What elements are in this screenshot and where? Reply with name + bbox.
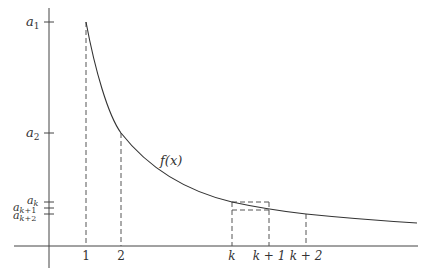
x-label-k2: k + 2 xyxy=(290,249,323,263)
dashed-lines xyxy=(86,22,306,246)
x-label-2: 2 xyxy=(117,249,125,263)
y-label-a2: a2 xyxy=(26,125,40,142)
x-label-1: 1 xyxy=(82,249,90,263)
x-label-k: k xyxy=(228,249,235,263)
diagram-canvas: a1 a2 ak ak+1 ak+2 f(x) 1 2 k k + 1 k + … xyxy=(0,0,427,275)
curve-f xyxy=(86,22,417,223)
x-label-k1: k + 1 xyxy=(253,249,286,263)
curve-label: f(x) xyxy=(159,153,182,168)
y-label-a1: a1 xyxy=(26,14,40,31)
